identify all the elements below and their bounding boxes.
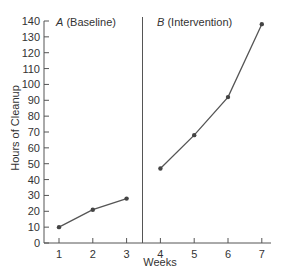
y-tick-label: 100: [22, 78, 40, 90]
x-tick-label: 5: [191, 248, 197, 260]
y-tick-label: 140: [22, 15, 40, 27]
x-tick-label: 2: [90, 248, 96, 260]
y-tick-label: 30: [28, 189, 40, 201]
y-axis-ticks: 0102030405060708090100110120130140: [22, 15, 49, 249]
x-tick-label: 6: [225, 248, 231, 260]
y-axis-label: Hours of Cleanup: [9, 85, 21, 171]
data-point: [226, 95, 230, 99]
x-tick-label: 3: [124, 248, 130, 260]
data-point: [124, 196, 128, 200]
data-point: [158, 166, 162, 170]
y-tick-label: 20: [28, 205, 40, 217]
data-series: [57, 22, 264, 229]
y-tick-label: 110: [22, 63, 40, 75]
y-tick-label: 10: [28, 221, 40, 233]
x-tick-label: 7: [259, 248, 265, 260]
series-line-1: [160, 24, 261, 168]
data-point: [260, 22, 264, 26]
y-tick-label: 50: [28, 158, 40, 170]
y-tick-label: 60: [28, 142, 40, 154]
phase-b-label: B (Intervention): [157, 16, 232, 28]
y-tick-label: 80: [28, 110, 40, 122]
data-point: [57, 225, 61, 229]
x-tick-label: 1: [56, 248, 62, 260]
chart: 0102030405060708090100110120130140 12345…: [0, 0, 285, 278]
y-tick-label: 90: [28, 94, 40, 106]
data-point: [91, 208, 95, 212]
y-tick-label: 70: [28, 126, 40, 138]
y-tick-label: 0: [34, 237, 40, 249]
phase-a-label: A (Baseline): [55, 16, 116, 28]
y-tick-label: 130: [22, 31, 40, 43]
y-tick-label: 40: [28, 174, 40, 186]
y-tick-label: 120: [22, 47, 40, 59]
series-line-0: [59, 199, 127, 228]
data-point: [192, 133, 196, 137]
x-axis-label: Weeks: [143, 256, 177, 268]
